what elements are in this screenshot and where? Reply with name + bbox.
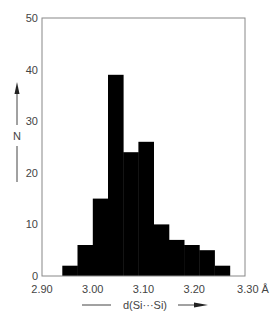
x-tick-label: 2.90 bbox=[31, 283, 52, 295]
histogram-bar bbox=[215, 266, 231, 276]
histogram-bar bbox=[154, 224, 170, 276]
x-tick-label: 3.00 bbox=[82, 283, 103, 295]
histogram-bar bbox=[123, 152, 139, 276]
arrow-right-icon bbox=[194, 303, 208, 308]
histogram-bar bbox=[138, 142, 154, 276]
x-axis-tick-labels: 2.903.003.103.203.30 Å bbox=[31, 283, 269, 295]
x-tick-label: 3.30 Å bbox=[237, 283, 269, 295]
y-axis-label-group: N bbox=[13, 82, 21, 182]
histogram-chart: 01020304050 2.903.003.103.203.30 Å N d(S… bbox=[0, 0, 271, 321]
x-tick-label: 3.10 bbox=[133, 283, 154, 295]
y-tick-label: 0 bbox=[32, 270, 38, 282]
y-axis-label: N bbox=[13, 130, 21, 142]
y-tick-label: 30 bbox=[26, 115, 38, 127]
histogram-bar bbox=[169, 240, 185, 276]
histogram-bar bbox=[78, 245, 94, 276]
x-tick-label: 3.20 bbox=[184, 283, 205, 295]
y-axis-tick-labels: 01020304050 bbox=[26, 12, 38, 282]
histogram-bar bbox=[108, 75, 124, 276]
y-tick-label: 10 bbox=[26, 218, 38, 230]
y-tick-label: 20 bbox=[26, 167, 38, 179]
y-tick-label: 50 bbox=[26, 12, 38, 24]
y-tick-label: 40 bbox=[26, 64, 38, 76]
arrow-up-icon bbox=[15, 82, 20, 94]
histogram-bar bbox=[184, 245, 200, 276]
histogram-bars bbox=[62, 75, 230, 276]
histogram-bar bbox=[62, 266, 78, 276]
x-axis-label: d(Si···Si) bbox=[123, 299, 167, 311]
histogram-bar bbox=[93, 199, 109, 276]
histogram-bar bbox=[199, 250, 215, 276]
x-axis-label-group: d(Si···Si) bbox=[82, 299, 208, 311]
